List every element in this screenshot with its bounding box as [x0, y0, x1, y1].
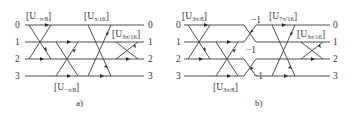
phase-factor: −1 [253, 71, 263, 81]
arrow-icon [204, 23, 208, 27]
arrow-icon [67, 40, 71, 44]
row-label-left-0: 0 [15, 20, 20, 30]
row-label-left-1: 1 [176, 37, 181, 47]
row-label-left-2: 2 [176, 54, 181, 64]
arrow-icon [311, 57, 315, 61]
arrow-icon [100, 74, 104, 78]
operator-label: [U−π/8] [54, 82, 79, 93]
row-label-left-2: 2 [15, 54, 20, 64]
arrow-icon [67, 74, 71, 78]
panel-b: 0 1 2 3 0 1 2 3 [176, 11, 338, 108]
row-label-right-3: 3 [148, 71, 153, 81]
arrow-icon [45, 23, 49, 27]
arrow-icon [250, 30, 254, 33]
arrow-icon [318, 44, 321, 48]
operator-label: [Uπ/16] [84, 11, 109, 22]
arrow-icon [133, 44, 136, 48]
operator-label: [U3π/16] [297, 29, 325, 40]
phase-factor: −1 [246, 45, 256, 55]
row-label-left-3: 3 [15, 71, 20, 81]
row-label-left-0: 0 [176, 20, 181, 30]
arrow-icon [199, 57, 203, 61]
row-label-left-1: 1 [15, 37, 20, 47]
row-label-right-1: 1 [148, 37, 153, 47]
row-label-right-3: 3 [333, 71, 338, 81]
panel-a: 0 1 2 3 0 1 2 3 [U [15, 11, 153, 108]
operator-label: [U3π/16] [112, 29, 140, 40]
arrow-icon [104, 65, 108, 68]
butterfly-diagram: 0 1 2 3 0 1 2 3 [U [0, 0, 352, 114]
row-label-right-1: 1 [333, 37, 338, 47]
panel-caption: b) [255, 98, 263, 108]
row-label-right-0: 0 [148, 20, 153, 30]
arrow-icon [40, 57, 44, 61]
row-label-right-0: 0 [333, 20, 338, 30]
arrow-icon [250, 67, 254, 70]
row-label-right-2: 2 [333, 54, 338, 64]
arrow-icon [284, 74, 288, 78]
operator-label: [U3π/8] [182, 11, 207, 22]
operator-label: [U3π/8] [213, 82, 238, 93]
operator-label: [U−π/8] [26, 11, 51, 22]
row-label-left-3: 3 [176, 71, 181, 81]
arrow-icon [227, 40, 231, 44]
phase-factor: −1 [251, 15, 261, 25]
crossover-line [244, 25, 270, 42]
arrow-icon [282, 23, 286, 27]
row-label-right-2: 2 [148, 54, 153, 64]
arrow-icon [126, 57, 130, 61]
arrow-icon [227, 74, 231, 78]
panel-caption: a) [76, 98, 83, 108]
operator-label: [U7π/16] [269, 11, 297, 22]
